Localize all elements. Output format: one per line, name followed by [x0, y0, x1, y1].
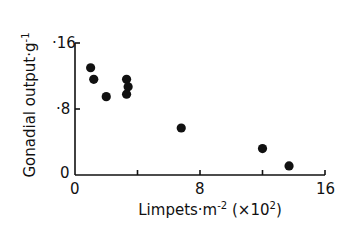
- data-point: [89, 75, 98, 84]
- x-tick-label-16: 16: [316, 182, 335, 197]
- x-tick-label-8: 8: [195, 182, 205, 197]
- data-point: [122, 90, 131, 99]
- y-axis-label: Gonadial output·g-1: [20, 32, 39, 177]
- x-tick-label-0: 0: [70, 182, 80, 197]
- y-tick-label-016: ·16: [52, 36, 76, 51]
- data-point: [284, 161, 293, 170]
- data-point: [102, 92, 111, 101]
- data-point: [177, 123, 186, 132]
- data-point: [258, 144, 267, 153]
- axes: [75, 43, 325, 175]
- y-tick-label-0: 0: [60, 166, 70, 181]
- data-point: [86, 63, 95, 72]
- data-points: [86, 63, 294, 170]
- x-axis-label: Limpets·m-2 (×102): [138, 200, 281, 219]
- y-tick-label-008: ·8: [56, 102, 70, 117]
